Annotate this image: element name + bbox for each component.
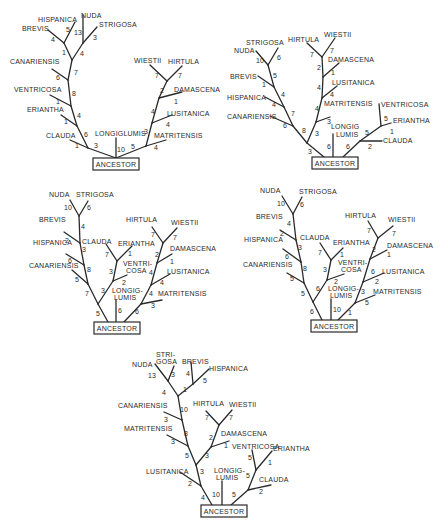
branch-length: 3 (151, 302, 155, 309)
taxon-label: LONGIG- (328, 285, 359, 292)
taxon-label: HISPANICA (227, 94, 266, 101)
branch-length: 2 (372, 246, 376, 253)
trees-layer: 316141867145413310543441277HISPANICANUDA… (10, 12, 433, 517)
branch-length: 10 (117, 146, 125, 153)
branch-length: 10 (256, 57, 264, 64)
taxon-label: GOSA (156, 358, 177, 365)
ancestor-label: ANCESTOR (314, 323, 354, 330)
branch-length: 5 (290, 275, 294, 282)
taxon-label: HIRTULA (288, 36, 319, 43)
branch-length: 13 (74, 29, 82, 36)
tree-branch (252, 450, 256, 470)
branch-length: 4 (281, 91, 285, 98)
taxon-label: CANARIENSIS (118, 402, 168, 409)
branch-length: 3 (315, 130, 319, 137)
branch-length: 3 (101, 287, 105, 294)
taxon-label: STRIGOSA (99, 21, 137, 28)
branch-length: 4 (51, 36, 55, 43)
taxon-label: HIRTULA (345, 212, 376, 219)
taxon-label: ERIANTHA (333, 239, 370, 246)
branch-length: 2 (155, 251, 159, 258)
branch-length: 1 (174, 98, 178, 105)
branch-length: 3 (164, 416, 168, 423)
taxon-label: BREVIS (182, 358, 209, 365)
taxon-label: ERIANTHA (393, 117, 430, 124)
branch-length: 7 (151, 231, 155, 238)
branch-length: 5 (131, 143, 135, 150)
branch-length: 6 (56, 74, 60, 81)
branch-length: 7 (367, 227, 371, 234)
branch-length: 10 (64, 204, 72, 211)
taxon-label: NUDA (132, 361, 153, 368)
tree-branch (322, 77, 323, 98)
branch-length: 4 (151, 108, 155, 115)
branch-length: 2 (375, 278, 379, 285)
branch-length: 3 (308, 148, 312, 155)
taxon-label: DAMASCENA (221, 430, 267, 437)
branch-length: 7 (105, 251, 109, 258)
branch-length: 1 (268, 459, 272, 466)
taxon-label: HISPANICA (209, 365, 248, 372)
branch-length: 5 (248, 454, 252, 461)
taxon-label: LONGIGLUMIS (95, 130, 146, 137)
taxon-label: CLAUDA (82, 238, 112, 245)
phylogenetic-tree: 655863241066237110153261277NUDASTRIGOSAH… (243, 187, 433, 332)
branch-length: 2 (160, 87, 164, 94)
branch-length: 7 (85, 290, 89, 297)
branch-length: 3 (93, 34, 97, 41)
taxon-label: ERIANTHA (27, 106, 64, 113)
branch-length: 2 (188, 480, 192, 487)
branch-length: 2 (209, 434, 213, 441)
branch-length: 3 (205, 452, 209, 459)
taxon-label: ERIANTHA (118, 240, 155, 247)
taxon-label: BREVIS (256, 213, 283, 220)
taxon-label: LUMIS (114, 294, 137, 301)
branch-length: 4 (149, 290, 153, 297)
branch-length: 6 (316, 285, 320, 292)
branch-length: 10 (333, 306, 341, 313)
taxon-label: MATRITENSIS (124, 425, 173, 432)
tree-branch (293, 214, 296, 240)
tree-branch (322, 57, 323, 77)
taxon-label: VENTRICOSA (381, 101, 429, 108)
taxon-label: CANARIENSIS (243, 261, 293, 268)
ancestor-label: ANCESTOR (315, 160, 355, 167)
taxon-label: LUMIS (336, 131, 359, 138)
taxon-label: WIESTII (171, 219, 198, 226)
taxon-label: STRIGOSA (299, 188, 337, 195)
branch-length: 6 (135, 308, 139, 315)
branch-length: 3 (171, 438, 175, 445)
branch-length: 3 (82, 246, 86, 253)
branch-length: 1 (64, 118, 68, 125)
taxon-label: STRIGOSA (76, 191, 114, 198)
taxon-label: CANARIENSIS (29, 262, 79, 269)
taxon-label: LUSITANICA (332, 79, 375, 86)
branch-length: 6 (310, 308, 314, 315)
tree-branch (113, 261, 117, 281)
branch-length: 5 (246, 472, 250, 479)
tree-branch (381, 123, 391, 126)
branch-length: 5 (66, 26, 70, 33)
branch-length: 6 (118, 307, 122, 314)
branch-length: 5 (384, 115, 388, 122)
phylogenetic-tree: 4235383104133145312771052551STRI-GOSANUD… (118, 351, 310, 517)
branch-length: 1 (262, 81, 266, 88)
branch-length: 10 (180, 406, 188, 413)
branch-length: 6 (371, 268, 375, 275)
taxon-label: NUDA (81, 12, 102, 19)
tree-branch (188, 446, 196, 465)
phylogenetic-tree: 38674415106334441277665512STRIGOSANUDAHI… (227, 31, 430, 169)
branch-length: 1 (62, 49, 66, 56)
ancestor-label: ANCESTOR (96, 161, 136, 168)
tree-branch (313, 302, 322, 320)
branch-length: 4 (80, 50, 84, 57)
tree-branch (68, 60, 72, 80)
branch-length: 6 (327, 143, 331, 150)
taxon-label: HISPANICA (244, 236, 283, 243)
tree-branch (79, 216, 80, 243)
branch-length: 2 (122, 279, 126, 286)
branch-length: 3 (323, 266, 327, 273)
taxon-label: CANARIENSIS (227, 113, 277, 120)
taxon-label: BREVIS (22, 25, 49, 32)
tree-branch (378, 226, 393, 238)
